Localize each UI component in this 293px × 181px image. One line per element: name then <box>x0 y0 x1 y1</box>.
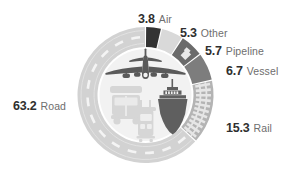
label-vessel: 6.7Vessel <box>226 62 278 78</box>
truck-icon <box>110 86 142 125</box>
chart-container: 3.8Air 5.3Other 5.7Pipeline 6.7Vessel 15… <box>0 0 293 181</box>
label-pipeline-name: Pipeline <box>226 45 264 57</box>
rail-sleeper <box>196 90 211 91</box>
road-dash-marking <box>145 152 154 153</box>
label-pipeline-value: 5.7 <box>205 44 222 58</box>
label-air-name: Air <box>159 13 172 25</box>
pipeline-zigzag-marking <box>184 49 190 57</box>
label-road-name: Road <box>41 100 67 112</box>
label-road: 63.2Road <box>13 97 66 113</box>
road-dash-marking <box>88 80 90 89</box>
rail-sleeper <box>196 100 211 101</box>
label-road-value: 63.2 <box>13 99 37 113</box>
label-other-value: 5.3 <box>180 26 197 40</box>
label-air: 3.8Air <box>138 10 172 26</box>
road-dash-marking <box>131 37 140 38</box>
label-other: 5.3Other <box>180 24 228 40</box>
label-vessel-value: 6.7 <box>226 64 243 78</box>
label-rail: 15.3Rail <box>226 119 272 135</box>
transport-modal-split-donut-chart <box>0 0 293 181</box>
label-vessel-name: Vessel <box>247 65 279 77</box>
label-other-name: Other <box>201 27 228 39</box>
label-rail-value: 15.3 <box>226 121 250 135</box>
label-pipeline: 5.7Pipeline <box>205 42 264 58</box>
label-air-value: 3.8 <box>138 12 155 26</box>
label-rail-name: Rail <box>254 122 273 134</box>
road-dash-marking <box>88 98 89 107</box>
